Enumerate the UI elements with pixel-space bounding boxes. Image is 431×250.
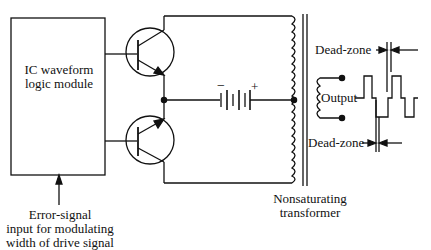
upper-transistor bbox=[105, 16, 174, 76]
battery-icon bbox=[221, 90, 250, 110]
error-label-line3: width of drive signal bbox=[0, 236, 120, 250]
error-signal-arrow-icon bbox=[56, 175, 62, 184]
arrow-left-icon bbox=[391, 47, 399, 53]
ic-module-box bbox=[11, 18, 105, 175]
output-terminal-top bbox=[339, 75, 344, 80]
error-label-line1: Error-signal bbox=[0, 208, 120, 222]
battery-minus-label: − bbox=[217, 79, 225, 93]
battery-plus-label: + bbox=[251, 80, 258, 94]
error-label-line2: input for modulating bbox=[0, 222, 120, 236]
ic-module-label: IC waveform logic module bbox=[20, 63, 98, 91]
transformer-label-line2: transformer bbox=[255, 206, 365, 220]
output-terminal-bottom bbox=[339, 115, 344, 120]
transformer-label-line1: Nonsaturating bbox=[255, 192, 365, 206]
ic-label-line2: logic module bbox=[20, 77, 98, 91]
arrow-left-icon bbox=[379, 140, 387, 146]
ic-label-line1: IC waveform bbox=[20, 63, 98, 77]
dead-zone-top-label: Dead-zone bbox=[315, 43, 371, 57]
lower-transistor bbox=[105, 116, 174, 183]
error-signal-label: Error-signal input for modulating width … bbox=[0, 208, 120, 250]
arrow-right-icon bbox=[379, 47, 387, 53]
output-label: Output bbox=[321, 91, 357, 105]
arrow-right-icon bbox=[368, 140, 376, 146]
transformer-label: Nonsaturating transformer bbox=[255, 192, 365, 220]
dead-zone-bottom-label: Dead-zone bbox=[308, 136, 364, 150]
